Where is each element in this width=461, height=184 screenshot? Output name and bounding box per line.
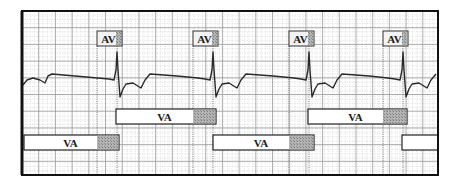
- av-marker: AV: [289, 31, 314, 46]
- va-interval-bar: VA: [116, 109, 216, 124]
- va-interval-bar: VA: [213, 135, 314, 150]
- va-interval-bar: [402, 135, 438, 150]
- va-intervals: VAVAVAVA: [24, 109, 438, 150]
- va-label: VA: [63, 137, 78, 149]
- va-interval-bar: VA: [24, 135, 119, 150]
- refractory-hatch: [193, 110, 215, 124]
- av-label: AV: [293, 33, 308, 45]
- va-label: VA: [157, 111, 172, 123]
- av-label: AV: [387, 33, 402, 45]
- av-marker: AV: [383, 31, 408, 46]
- refractory-hatch: [289, 136, 313, 150]
- av-label: AV: [197, 33, 212, 45]
- refractory-hatch: [383, 110, 406, 124]
- av-marker: AV: [97, 31, 122, 46]
- ecg-timing-diagram: AVAVAVAV VAVAVAVA: [0, 0, 461, 184]
- va-interval-bar: VA: [308, 109, 407, 124]
- refractory-hatch: [97, 136, 118, 150]
- av-marker: AV: [193, 31, 218, 46]
- av-label: AV: [101, 33, 116, 45]
- va-label: VA: [348, 111, 363, 123]
- va-label: VA: [254, 137, 269, 149]
